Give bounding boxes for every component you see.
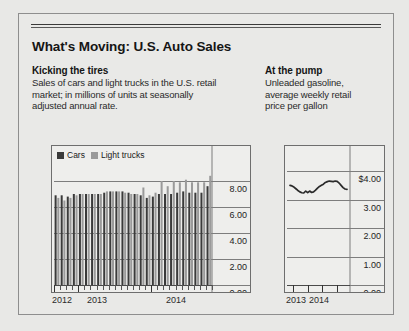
right-body-line-1: Unleaded gasoline,	[265, 77, 344, 88]
svg-text:0.00: 0.00	[363, 288, 381, 293]
line-chart-x-axis-labels: 2013 2014	[284, 295, 385, 309]
right-section-body: Unleaded gasoline, average weekly retail…	[265, 77, 385, 112]
bar-x-label-1: 2013	[87, 295, 107, 305]
page-title: What's Moving: U.S. Auto Sales	[32, 39, 231, 54]
auto-sales-bar-chart: Cars Light trucks 0.002.004.006.008.00	[51, 145, 251, 293]
left-body-line-3: adjusted annual rate.	[32, 100, 118, 111]
left-section-heading: Kicking the tires	[32, 65, 250, 76]
legend-item-light-trucks: Light trucks	[91, 150, 144, 160]
rule-line-top	[31, 24, 381, 25]
bar-chart-svg: 0.002.004.006.008.00	[52, 146, 250, 292]
line-x-label-0: 2013	[286, 295, 306, 305]
left-body-line-1: Sales of cars and light trucks in the U.…	[32, 77, 216, 88]
bar-x-label-2: 2014	[166, 295, 186, 305]
svg-text:2.00: 2.00	[363, 231, 381, 241]
legend-swatch-cars	[57, 152, 64, 159]
bar-chart-plot-area: 0.002.004.006.008.00	[52, 146, 250, 292]
legend-item-cars: Cars	[57, 150, 85, 160]
right-column: At the pump Unleaded gasoline, average w…	[265, 65, 385, 112]
bar-chart-x-axis-labels: 2012 2013 2014	[51, 295, 251, 309]
gasoline-price-line-chart: 0.001.002.003.00$4.00	[284, 145, 385, 293]
bar-chart-legend: Cars Light trucks	[57, 150, 144, 160]
left-body-line-2: market; in millions of units at seasonal…	[32, 89, 193, 100]
svg-text:1.00: 1.00	[363, 260, 381, 270]
infographic-panel: What's Moving: U.S. Auto Sales Kicking t…	[18, 13, 394, 315]
infographic-page: What's Moving: U.S. Auto Sales Kicking t…	[0, 0, 409, 331]
svg-text:0.00: 0.00	[229, 288, 247, 293]
legend-label-light-trucks: Light trucks	[101, 150, 144, 160]
line-chart-svg: 0.001.002.003.00$4.00	[285, 146, 384, 292]
line-chart-plot-area: 0.001.002.003.00$4.00	[285, 146, 384, 292]
left-section-body: Sales of cars and light trucks in the U.…	[32, 77, 250, 112]
svg-text:4.00: 4.00	[229, 236, 247, 246]
svg-text:6.00: 6.00	[229, 210, 247, 220]
svg-text:$4.00: $4.00	[358, 174, 381, 184]
right-body-line-2: average weekly retail	[265, 89, 351, 100]
svg-text:3.00: 3.00	[363, 203, 381, 213]
svg-text:8.00: 8.00	[229, 184, 247, 194]
legend-swatch-light-trucks	[91, 152, 98, 159]
top-double-rule	[31, 24, 381, 29]
left-column: Kicking the tires Sales of cars and ligh…	[32, 65, 250, 112]
rule-line-bottom	[31, 27, 381, 28]
bar-x-label-0: 2012	[52, 295, 72, 305]
right-body-line-3: price per gallon	[265, 100, 328, 111]
line-x-label-1: 2014	[309, 295, 329, 305]
legend-label-cars: Cars	[67, 150, 85, 160]
svg-text:2.00: 2.00	[229, 262, 247, 272]
right-section-heading: At the pump	[265, 65, 385, 76]
